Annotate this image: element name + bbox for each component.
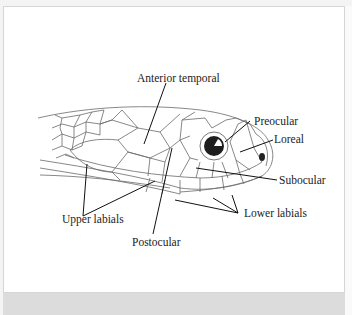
label-anterior-temporal: Anterior temporal <box>137 73 220 85</box>
leader-upper-labial-1 <box>83 164 87 216</box>
snake-head-illustration <box>0 0 352 315</box>
label-upper-labials: Upper labials <box>62 214 124 226</box>
label-preocular: Preocular <box>254 116 298 128</box>
leader-anterior-temporal <box>144 83 166 144</box>
nostril <box>259 153 265 161</box>
label-lower-labials: Lower labials <box>244 208 307 220</box>
label-postocular: Postocular <box>132 237 181 249</box>
leader-postocular <box>153 148 172 234</box>
leader-lower-labial-1 <box>175 200 238 213</box>
label-loreal: Loreal <box>274 134 304 146</box>
leader-loreal <box>240 140 273 152</box>
leader-upper-labial-2 <box>83 181 155 216</box>
label-subocular: Subocular <box>279 175 326 187</box>
